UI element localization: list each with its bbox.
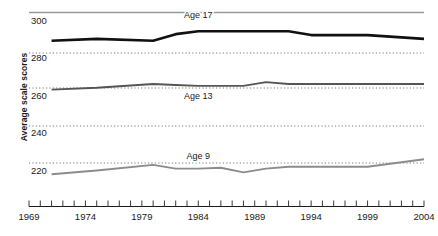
chart-container: Average scale scores 300280260240220 Age…	[0, 0, 438, 236]
line-chart: 300280260240220 Age 17Age 17Age 13Age 13…	[0, 0, 438, 236]
x-tick-label-1984: 1984	[188, 211, 209, 222]
y-tick-label-240: 240	[31, 127, 47, 138]
series-line-age-13	[52, 82, 424, 90]
y-tick-label-260: 260	[31, 90, 47, 101]
x-tick-label-2004: 2004	[413, 211, 434, 222]
x-axis-ticks	[29, 201, 424, 207]
y-axis-tick-labels: 300280260240220	[31, 15, 47, 177]
x-tick-label-1979: 1979	[131, 211, 152, 222]
x-axis-tick-labels: 19691974197919841989199419992004	[18, 211, 434, 222]
x-tick-label-1989: 1989	[244, 211, 265, 222]
series-label-age-9: Age 9	[187, 151, 211, 161]
x-tick-label-1974: 1974	[75, 211, 96, 222]
y-tick-label-220: 220	[31, 165, 47, 176]
series-label-age-17: Age 17	[184, 10, 213, 20]
x-tick-label-1969: 1969	[18, 211, 39, 222]
series-line-age-9	[52, 159, 424, 174]
x-tick-label-1994: 1994	[301, 211, 322, 222]
series-label-age-13: Age 13	[184, 91, 213, 101]
y-tick-label-300: 300	[31, 15, 47, 26]
x-tick-label-1999: 1999	[357, 211, 378, 222]
y-tick-label-280: 280	[31, 52, 47, 63]
series-line-age-17	[52, 31, 424, 40]
